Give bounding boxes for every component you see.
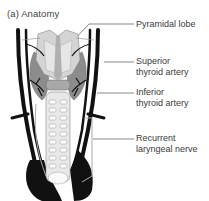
label-text: Recurrent: [136, 133, 198, 144]
label-text: Superior: [136, 56, 189, 67]
label-text: Pyramidal lobe: [136, 19, 196, 30]
leader-pyramidal-lobe: [70, 24, 134, 44]
label-pyramidal-lobe: Pyramidal lobe: [136, 19, 196, 30]
label-superior-thyroid-artery: Superior thyroid artery: [136, 56, 189, 78]
label-text: laryngeal nerve: [136, 144, 198, 155]
label-inferior-thyroid-artery: Inferior thyroid artery: [136, 87, 189, 109]
label-text: Inferior: [136, 87, 189, 98]
label-text: thyroid artery: [136, 67, 189, 78]
label-text: thyroid artery: [136, 98, 189, 109]
figure-title: (a) Anatomy: [7, 8, 59, 19]
trachea: [46, 92, 70, 184]
label-recurrent-laryngeal-nerve: Recurrent laryngeal nerve: [136, 133, 198, 155]
